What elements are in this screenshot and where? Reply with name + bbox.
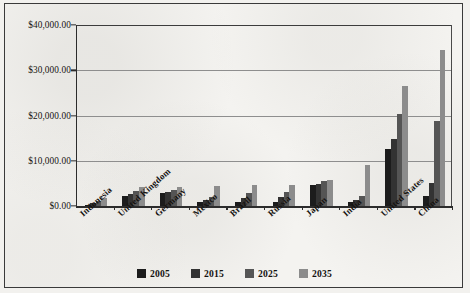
x-axis-tick xyxy=(114,206,115,210)
bar-group xyxy=(273,25,295,206)
x-axis-tick xyxy=(264,206,265,210)
bar xyxy=(289,185,295,206)
bar-group xyxy=(423,25,445,206)
legend-swatch xyxy=(245,269,254,278)
chart-frame: $0.00$10,000.00$20,000.00$30,000.00$40,0… xyxy=(4,3,463,288)
bar-group xyxy=(85,25,107,206)
legend-item: 2035 xyxy=(299,268,332,279)
legend-item: 2005 xyxy=(137,268,170,279)
legend-label: 2015 xyxy=(204,268,224,279)
x-axis-tick xyxy=(414,206,415,210)
y-axis-tick-label: $30,000.00 xyxy=(28,65,71,75)
x-axis-tick xyxy=(302,206,303,210)
bar xyxy=(440,50,446,206)
y-axis-tick-label: $40,000.00 xyxy=(28,20,71,30)
bar-group xyxy=(348,25,370,206)
bar xyxy=(252,185,258,206)
x-axis-tick xyxy=(339,206,340,210)
legend-item: 2015 xyxy=(191,268,224,279)
bar-group xyxy=(197,25,219,206)
bar xyxy=(365,165,371,206)
x-axis-tick xyxy=(377,206,378,210)
y-axis: $0.00$10,000.00$20,000.00$30,000.00$40,0… xyxy=(5,4,71,293)
legend-swatch xyxy=(137,269,146,278)
legend-swatch xyxy=(299,269,308,278)
bar-group xyxy=(310,25,332,206)
bar-group xyxy=(235,25,257,206)
legend-item: 2025 xyxy=(245,268,278,279)
legend-label: 2035 xyxy=(312,268,332,279)
x-axis-tick xyxy=(151,206,152,210)
x-axis-tick xyxy=(226,206,227,210)
chart-legend: 2005201520252035 xyxy=(5,268,464,279)
legend-label: 2005 xyxy=(150,268,170,279)
y-axis-tick-label: $10,000.00 xyxy=(28,156,71,166)
bar-group xyxy=(122,25,144,206)
x-axis-tick xyxy=(452,206,453,210)
y-axis-tick-label: $0.00 xyxy=(50,201,71,211)
legend-swatch xyxy=(191,269,200,278)
y-axis-tick-label: $20,000.00 xyxy=(28,111,71,121)
legend-label: 2025 xyxy=(258,268,278,279)
x-axis-tick xyxy=(189,206,190,210)
bar-group xyxy=(385,25,407,206)
